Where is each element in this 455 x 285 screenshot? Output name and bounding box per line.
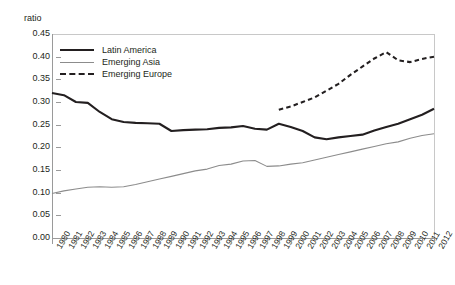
- series-line: [52, 93, 434, 139]
- legend-label-emerging-europe: Emerging Europe: [102, 69, 172, 79]
- chart-container: ratio 0.450.400.350.300.250.200.150.100.…: [0, 0, 455, 285]
- chart-legend: Latin America Emerging Asia Emerging Eur…: [60, 44, 172, 80]
- series-line: [279, 52, 434, 110]
- legend-swatch-solid-thick-icon: [60, 45, 94, 55]
- legend-item-latin-america: Latin America: [60, 44, 172, 56]
- series-line: [52, 134, 434, 194]
- legend-swatch-solid-thin-icon: [60, 57, 94, 67]
- legend-swatch-dashed-icon: [60, 69, 94, 79]
- legend-item-emerging-europe: Emerging Europe: [60, 68, 172, 80]
- legend-item-emerging-asia: Emerging Asia: [60, 56, 172, 68]
- legend-label-emerging-asia: Emerging Asia: [102, 57, 160, 67]
- series-lines: [0, 0, 455, 285]
- legend-label-latin-america: Latin America: [102, 45, 157, 55]
